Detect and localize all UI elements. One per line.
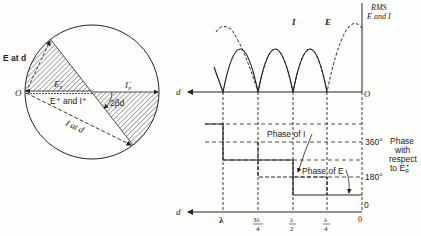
tick-180: 180° — [365, 172, 383, 182]
rms-d-label: d — [176, 87, 181, 97]
curve-i-label: I — [291, 17, 296, 27]
tick-0-top: 0 — [364, 200, 369, 210]
x-tick-zero: 0 — [358, 215, 362, 224]
curve-e — [214, 49, 327, 92]
curve-i — [216, 24, 362, 92]
origin-label: O — [15, 88, 22, 98]
x-tick-lambda2-den: 2 — [290, 225, 294, 233]
phase-of-e-label: Phase of E — [302, 166, 344, 176]
angle-label: 2βd — [110, 98, 125, 108]
e-at-d-label: E at d — [3, 53, 26, 63]
phase-d-label: d — [176, 207, 181, 217]
tick-360: 360° — [365, 137, 383, 147]
phase-plot: d Phase of I Phase of E 360° 180° 0 Phas… — [176, 124, 418, 233]
circle-diagram: E at d O ER− IR− E⁺ and I⁺ 2βd I at d — [3, 25, 159, 159]
x-tick-3lambda4-den: 4 — [256, 225, 260, 233]
ir-minus-label: IR− — [124, 79, 132, 91]
e-plus-i-plus-label: E⁺ and I⁺ — [50, 96, 87, 106]
rms-plot: d O I E RMS E and I — [176, 3, 391, 99]
x-tick-lambda4-num: λ — [324, 216, 328, 224]
x-tick-3lambda4-num: 3λ — [253, 216, 261, 224]
rms-axis-title-1: RMS — [370, 3, 387, 12]
x-tick-lambda: λ — [219, 215, 224, 225]
x-tick-lambda2-num: λ — [290, 216, 294, 224]
figure: E at d O ER− IR− E⁺ and I⁺ 2βd I at d d … — [0, 0, 421, 236]
hatched-sector-lower — [92, 92, 159, 145]
phase-of-i-label: Phase of I — [267, 129, 305, 139]
rms-origin-label: O — [364, 89, 370, 99]
rms-axis-title-2: E and I — [366, 12, 391, 21]
x-tick-lambda4-den: 4 — [324, 225, 328, 233]
side-label-4: to ER+ — [390, 162, 410, 174]
i-at-d-label: I at d — [63, 117, 86, 135]
curve-e-label: E — [324, 17, 331, 27]
